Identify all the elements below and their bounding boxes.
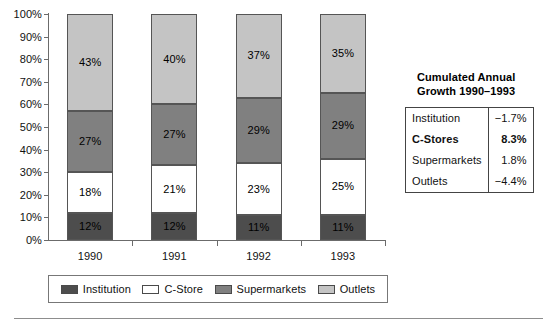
growth-metric-value: −4.4% [488, 171, 533, 193]
growth-table: Institution−1.7%C-Stores8.3%Supermarkets… [405, 107, 534, 193]
x-tick-label: 1992 [219, 250, 299, 262]
y-axis-tick-labels: 0%10%20%30%40%50%60%70%80%90%100% [0, 0, 42, 326]
table-row: Institution−1.7% [406, 108, 534, 130]
y-tick-label: 60% [2, 99, 42, 110]
plot-area: 12%18%27%43%12%21%27%40%11%23%29%37%11%2… [48, 14, 385, 240]
growth-metric-name: Outlets [406, 171, 489, 193]
bar-segment[interactable]: 12% [67, 213, 113, 240]
x-tick-mark [385, 241, 386, 246]
legend-item[interactable]: Supermarkets [215, 284, 307, 295]
bar-segment[interactable]: 21% [151, 165, 197, 212]
bar-segment-label: 43% [79, 57, 101, 68]
y-tick-label: 80% [2, 54, 42, 65]
stacked-bar-chart-figure: 0%10%20%30%40%50%60%70%80%90%100% 12%18%… [0, 0, 557, 326]
legend-label: C-Store [164, 284, 203, 295]
x-tick-mark [132, 241, 133, 246]
legend-swatch-icon [318, 285, 335, 294]
legend-item[interactable]: Outlets [318, 284, 376, 295]
growth-metric-value: −1.7% [488, 108, 533, 130]
y-tick-label: 0% [2, 235, 42, 246]
growth-metric-value: 1.8% [488, 150, 533, 171]
bar-segment[interactable]: 43% [67, 14, 113, 111]
growth-title-line-1: Cumulated Annual [417, 70, 533, 84]
bar-column[interactable]: 11%25%29%35% [320, 14, 366, 240]
table-row: Outlets−4.4% [406, 171, 534, 193]
chart-legend: InstitutionC-StoreSupermarketsOutlets [48, 275, 388, 303]
bar-segment-label: 11% [332, 222, 354, 233]
x-tick-label: 1993 [303, 250, 383, 262]
y-tick-label: 70% [2, 77, 42, 88]
table-row: Supermarkets1.8% [406, 150, 534, 171]
y-tick-label: 20% [2, 190, 42, 201]
x-tick-label: 1990 [50, 250, 130, 262]
bar-segment[interactable]: 25% [320, 159, 366, 216]
legend-swatch-icon [61, 285, 78, 294]
y-tick-label: 40% [2, 145, 42, 156]
y-tick-label: 90% [2, 32, 42, 43]
y-tick-label: 100% [2, 9, 42, 20]
growth-metric-name: Supermarkets [406, 150, 489, 171]
bar-segment[interactable]: 11% [236, 215, 282, 240]
bar-segment-label: 18% [79, 187, 101, 198]
bar-segment[interactable]: 35% [320, 14, 366, 93]
bar-segment-label: 37% [247, 50, 269, 61]
legend-swatch-icon [215, 285, 232, 294]
bar-segment-label: 40% [163, 54, 185, 65]
growth-metric-value: 8.3% [488, 129, 533, 150]
bar-column[interactable]: 12%21%27%40% [151, 14, 197, 240]
legend-label: Supermarkets [237, 284, 307, 295]
legend-item[interactable]: Institution [61, 284, 131, 295]
bar-segment-label: 12% [163, 221, 185, 232]
bar-segment[interactable]: 18% [67, 172, 113, 213]
legend-item[interactable]: C-Store [142, 284, 203, 295]
bar-column[interactable]: 11%23%29%37% [236, 14, 282, 240]
x-tick-mark [301, 241, 302, 246]
bar-segment[interactable]: 27% [67, 111, 113, 172]
bar-segment-label: 27% [79, 136, 101, 147]
growth-panel: Cumulated Annual Growth 1990–1993 Instit… [405, 70, 533, 193]
bar-segment-label: 25% [332, 181, 354, 192]
growth-metric-name: C-Stores [406, 129, 489, 150]
growth-metric-name: Institution [406, 108, 489, 130]
bar-segment-label: 23% [247, 184, 269, 195]
growth-panel-title: Cumulated Annual Growth 1990–1993 [417, 70, 533, 98]
bar-segment[interactable]: 37% [236, 14, 282, 98]
bar-segment-label: 29% [332, 120, 354, 131]
bar-segment[interactable]: 29% [236, 98, 282, 164]
bar-segment[interactable]: 40% [151, 14, 197, 104]
bar-column[interactable]: 12%18%27%43% [67, 14, 113, 240]
bar-segment-label: 11% [248, 222, 270, 233]
bar-segment[interactable]: 27% [151, 104, 197, 165]
bar-segment-label: 29% [247, 125, 269, 136]
growth-title-line-2: Growth 1990–1993 [417, 84, 533, 98]
growth-table-body: Institution−1.7%C-Stores8.3%Supermarkets… [406, 108, 534, 193]
bar-segment[interactable]: 12% [151, 213, 197, 240]
bar-segment-label: 12% [79, 221, 101, 232]
y-tick-label: 30% [2, 167, 42, 178]
x-tick-label: 1991 [134, 250, 214, 262]
table-row: C-Stores8.3% [406, 129, 534, 150]
bar-segment-label: 35% [332, 48, 354, 59]
bottom-divider [14, 318, 543, 319]
bar-segment[interactable]: 23% [236, 163, 282, 215]
bar-segment-label: 21% [163, 184, 185, 195]
y-tick-label: 10% [2, 212, 42, 223]
bar-segment[interactable]: 11% [320, 215, 366, 240]
y-tick-label: 50% [2, 122, 42, 133]
legend-label: Institution [83, 284, 131, 295]
legend-swatch-icon [142, 285, 159, 294]
legend-label: Outlets [340, 284, 376, 295]
bar-segment-label: 27% [163, 129, 185, 140]
bar-segment[interactable]: 29% [320, 93, 366, 159]
x-tick-mark [217, 241, 218, 246]
